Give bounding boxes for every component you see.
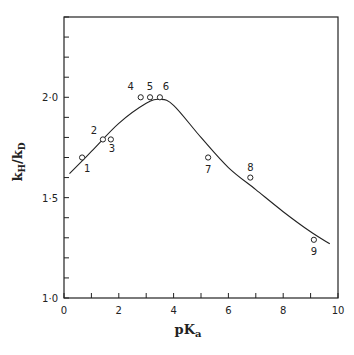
y-tick-label: 1·5 (42, 193, 58, 204)
point-label: 8 (247, 162, 253, 173)
point-label: 4 (128, 81, 134, 92)
data-point (311, 237, 316, 242)
point-label: 6 (163, 81, 169, 92)
point-label: 7 (205, 164, 211, 175)
data-point (100, 137, 105, 142)
data-point (248, 175, 253, 180)
data-points: 123456789 (79, 81, 317, 257)
fitted-curve (69, 99, 329, 244)
point-label: 3 (109, 143, 115, 154)
x-tick-label: 6 (225, 305, 231, 316)
y-tick-label: 1·0 (42, 293, 58, 304)
x-axis-title: pKa (175, 322, 202, 339)
data-point (79, 155, 84, 160)
data-point (157, 95, 162, 100)
x-tick-label: 0 (61, 305, 67, 316)
y-tick-label: 2·0 (42, 92, 58, 103)
chart: 02468101·01·52·0 123456789 pKa kH/kD (0, 0, 354, 355)
x-tick-label: 2 (116, 305, 122, 316)
curve-path (69, 99, 329, 244)
data-point (138, 95, 143, 100)
x-tick-label: 10 (332, 305, 345, 316)
data-point (206, 155, 211, 160)
point-label: 9 (311, 246, 317, 257)
x-tick-label: 4 (170, 305, 176, 316)
data-point (108, 137, 113, 142)
point-label: 1 (84, 163, 90, 174)
y-axis-title: kH/kD (10, 142, 27, 181)
data-point (147, 95, 152, 100)
point-label: 5 (147, 81, 153, 92)
plot-frame (64, 17, 338, 298)
x-tick-label: 8 (280, 305, 286, 316)
point-label: 2 (91, 125, 97, 136)
